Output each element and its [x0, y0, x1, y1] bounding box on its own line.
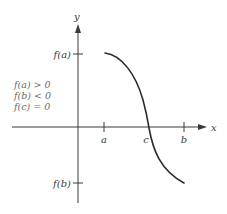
- condition-fb: f(b) < 0: [13, 90, 51, 101]
- x-tick-label-a: a: [101, 134, 107, 145]
- function-curve: [105, 53, 184, 183]
- x-tick-label-b: b: [181, 134, 187, 145]
- y-axis-arrow-icon: [75, 24, 81, 33]
- x-tick-label-c: c: [143, 134, 149, 145]
- condition-fa: f(a) > 0: [13, 79, 51, 90]
- y-tick-label-fa: f(a): [53, 49, 72, 60]
- x-axis-label: x: [211, 122, 217, 133]
- y-axis-label: y: [73, 11, 80, 22]
- y-tick-label-fb: f(b): [52, 178, 71, 189]
- condition-fc: f(c) = 0: [13, 101, 50, 112]
- x-axis-arrow-icon: [198, 124, 207, 130]
- intermediate-value-diagram: x y f(a) f(b) a c b f(a) > 0 f(b) < 0 f(…: [0, 0, 227, 214]
